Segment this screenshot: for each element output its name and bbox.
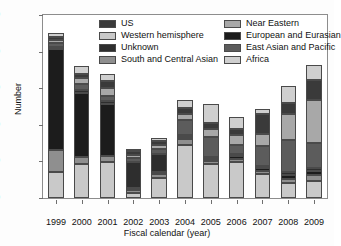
bar-segment[interactable]	[100, 96, 115, 101]
bar-segment[interactable]	[306, 143, 321, 168]
bar-segment[interactable]	[74, 164, 89, 198]
bar-2000[interactable]	[74, 15, 89, 198]
bar-segment[interactable]	[306, 181, 321, 198]
bar-segment[interactable]	[48, 37, 63, 40]
bar-segment[interactable]	[281, 183, 296, 198]
bar-segment[interactable]	[100, 81, 115, 87]
bar-segment[interactable]	[126, 151, 141, 155]
x-axis-tick-label: 2004	[175, 217, 195, 227]
bar-segment[interactable]	[48, 33, 63, 37]
bar-segment[interactable]	[255, 114, 270, 134]
bar-segment[interactable]	[177, 145, 192, 198]
bar-segment[interactable]	[126, 158, 141, 162]
bar-segment[interactable]	[48, 49, 63, 150]
bar-segment[interactable]	[100, 162, 115, 198]
bar-segment[interactable]	[126, 162, 141, 189]
bar-segment[interactable]	[203, 129, 218, 137]
bar-segment[interactable]	[255, 166, 270, 168]
bar-segment[interactable]	[48, 150, 63, 173]
bar-segment[interactable]	[229, 156, 244, 159]
bar-segment[interactable]	[100, 104, 115, 156]
legend-item[interactable]: East Asian and Pacific	[224, 42, 341, 53]
legend-item[interactable]: US	[99, 18, 218, 29]
bar-segment[interactable]	[229, 117, 244, 129]
bar-segment[interactable]	[203, 137, 218, 156]
bar-segment[interactable]	[74, 157, 89, 164]
bar-segment[interactable]	[177, 100, 192, 108]
bar-segment[interactable]	[281, 175, 296, 179]
bar-segment[interactable]	[255, 171, 270, 174]
bar-segment[interactable]	[74, 90, 89, 92]
legend-item-label: Western hemisphere	[121, 31, 204, 40]
bar-segment[interactable]	[48, 172, 63, 198]
bar-segment[interactable]	[100, 101, 115, 103]
bar-segment[interactable]	[100, 156, 115, 162]
legend-item[interactable]: South and Central Asian	[99, 54, 218, 65]
legend-item[interactable]: Near Eastern	[224, 18, 341, 29]
bar-segment[interactable]	[74, 74, 89, 78]
bar-segment[interactable]	[255, 134, 270, 146]
bar-segment[interactable]	[229, 135, 244, 145]
bar-segment[interactable]	[151, 138, 166, 141]
bar-segment[interactable]	[74, 78, 89, 84]
bar-segment[interactable]	[126, 188, 141, 190]
bar-segment[interactable]	[281, 172, 296, 175]
legend-item[interactable]: Unknown	[99, 42, 218, 53]
bar-segment[interactable]	[306, 80, 321, 100]
bar-segment[interactable]	[281, 114, 296, 141]
bar-segment[interactable]	[177, 114, 192, 120]
bar-segment[interactable]	[151, 141, 166, 145]
bar-segment[interactable]	[203, 159, 218, 161]
legend-item[interactable]: Western hemisphere	[99, 30, 218, 41]
bar-segment[interactable]	[203, 164, 218, 198]
bar-segment[interactable]	[255, 109, 270, 113]
legend-item[interactable]: Africa	[224, 54, 341, 65]
bar-segment[interactable]	[229, 145, 244, 153]
bar-segment[interactable]	[306, 168, 321, 171]
bar-segment[interactable]	[281, 103, 296, 114]
legend-item[interactable]: European and Eurasian	[224, 30, 341, 41]
bar-segment[interactable]	[203, 157, 218, 159]
bar-segment[interactable]	[255, 168, 270, 171]
bar-segment[interactable]	[126, 155, 141, 158]
bar-segment[interactable]	[306, 175, 321, 180]
bar-segment[interactable]	[306, 171, 321, 176]
bar-segment[interactable]	[151, 149, 166, 154]
bar-1999[interactable]	[48, 15, 63, 198]
bar-segment[interactable]	[177, 137, 192, 140]
bar-segment[interactable]	[229, 129, 244, 135]
bar-segment[interactable]	[281, 86, 296, 102]
bar-segment[interactable]	[229, 159, 244, 163]
bar-segment[interactable]	[48, 47, 63, 49]
bar-segment[interactable]	[281, 140, 296, 172]
bar-segment[interactable]	[177, 120, 192, 134]
bar-segment[interactable]	[151, 145, 166, 150]
bar-segment[interactable]	[229, 162, 244, 198]
bar-segment[interactable]	[151, 154, 166, 172]
bar-segment[interactable]	[100, 88, 115, 96]
bar-segment[interactable]	[177, 135, 192, 137]
bar-segment[interactable]	[100, 74, 115, 82]
bar-segment[interactable]	[281, 179, 296, 184]
bar-segment[interactable]	[74, 93, 89, 157]
bar-segment[interactable]	[255, 146, 270, 166]
bar-segment[interactable]	[306, 65, 321, 80]
bar-segment[interactable]	[151, 172, 166, 174]
bar-segment[interactable]	[306, 100, 321, 143]
bar-segment[interactable]	[74, 84, 89, 90]
bar-segment[interactable]	[203, 123, 218, 129]
bar-segment[interactable]	[255, 174, 270, 198]
bar-segment[interactable]	[151, 178, 166, 198]
bar-segment[interactable]	[48, 40, 63, 43]
bar-segment[interactable]	[126, 193, 141, 198]
bar-segment[interactable]	[48, 43, 63, 46]
bar-segment[interactable]	[229, 154, 244, 156]
bar-segment[interactable]	[126, 190, 141, 192]
bar-segment[interactable]	[203, 104, 218, 123]
bar-segment[interactable]	[151, 174, 166, 178]
bar-segment[interactable]	[177, 139, 192, 144]
bar-segment[interactable]	[126, 149, 141, 151]
bar-segment[interactable]	[203, 161, 218, 164]
bar-segment[interactable]	[177, 108, 192, 113]
bar-segment[interactable]	[74, 66, 89, 74]
